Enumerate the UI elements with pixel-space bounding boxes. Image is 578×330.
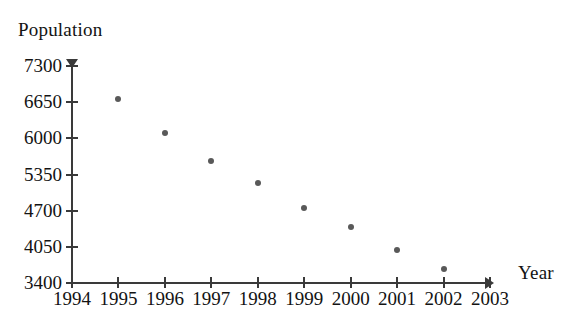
data-point bbox=[301, 205, 307, 211]
x-axis-tick bbox=[303, 277, 305, 288]
x-axis-tick bbox=[71, 277, 73, 288]
x-axis-tick bbox=[210, 277, 212, 288]
y-axis-tick-label: 7300 bbox=[6, 55, 62, 77]
data-point bbox=[255, 180, 261, 186]
x-axis-tick-label: 2001 bbox=[378, 288, 416, 310]
y-axis-title: Population bbox=[18, 19, 102, 41]
x-axis-line bbox=[71, 282, 492, 284]
x-axis-tick-label: 1994 bbox=[53, 288, 91, 310]
y-axis-tick bbox=[66, 246, 78, 248]
x-axis-tick-label: 2000 bbox=[332, 288, 370, 310]
data-point bbox=[115, 96, 121, 102]
x-axis-tick-label: 1996 bbox=[146, 288, 184, 310]
x-axis-tick bbox=[117, 277, 119, 288]
y-axis-tick bbox=[66, 65, 78, 67]
x-axis-title: Year bbox=[518, 262, 554, 284]
y-axis-tick-label: 4050 bbox=[6, 236, 62, 258]
x-axis-tick bbox=[443, 277, 445, 288]
x-axis-tick-label: 2003 bbox=[471, 288, 509, 310]
x-axis-tick bbox=[396, 277, 398, 288]
y-axis-tick-label: 5350 bbox=[6, 164, 62, 186]
y-axis-tick bbox=[66, 101, 78, 103]
x-axis-tick-label: 1997 bbox=[192, 288, 230, 310]
y-axis-tick bbox=[66, 174, 78, 176]
population-scatter-chart: Population Year 340040504700535060006650… bbox=[0, 0, 578, 330]
x-axis-tick-label: 1999 bbox=[285, 288, 323, 310]
data-point bbox=[441, 266, 447, 272]
y-axis-tick-label: 6000 bbox=[6, 127, 62, 149]
x-axis-tick bbox=[489, 277, 491, 288]
data-point bbox=[162, 130, 168, 136]
y-axis-tick-label: 4700 bbox=[6, 200, 62, 222]
data-point bbox=[348, 224, 354, 230]
x-axis-tick bbox=[257, 277, 259, 288]
data-point bbox=[394, 247, 400, 253]
data-point bbox=[208, 158, 214, 164]
x-axis-tick-label: 2002 bbox=[425, 288, 463, 310]
x-axis-tick-label: 1995 bbox=[99, 288, 137, 310]
x-axis-tick-label: 1998 bbox=[239, 288, 277, 310]
y-axis-tick bbox=[66, 137, 78, 139]
y-axis-tick-label: 6650 bbox=[6, 91, 62, 113]
x-axis-tick bbox=[164, 277, 166, 288]
x-axis-tick bbox=[350, 277, 352, 288]
y-axis-tick bbox=[66, 210, 78, 212]
